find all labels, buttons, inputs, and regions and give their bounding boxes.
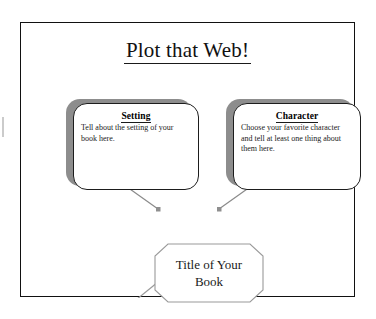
setting-heading-text: Setting [121, 111, 150, 123]
worksheet-frame: Plot that Web! Setting [20, 22, 355, 297]
character-box[interactable]: Character Choose your favorite character… [233, 103, 361, 190]
worksheet-title-text: Plot that Web! [124, 38, 251, 64]
worksheet-title: Plot that Web! [21, 38, 354, 62]
connector-origin-dot-character [217, 207, 222, 212]
connector-origin-dot-setting [156, 207, 161, 212]
scan-artifact [2, 117, 4, 137]
book-title-octagon[interactable]: Title of Your Book [154, 243, 264, 303]
setting-body-text: Tell about the setting of your book here… [74, 123, 198, 144]
character-body-text: Choose your favorite character and tell … [234, 123, 360, 155]
character-heading-text: Character [276, 111, 319, 123]
character-heading: Character [234, 111, 360, 122]
connector-center-to-lower-left [120, 282, 158, 298]
setting-heading: Setting [74, 111, 198, 122]
setting-box[interactable]: Setting Tell about the setting of your b… [73, 103, 199, 190]
book-title-label: Title of Your Book [154, 243, 264, 303]
